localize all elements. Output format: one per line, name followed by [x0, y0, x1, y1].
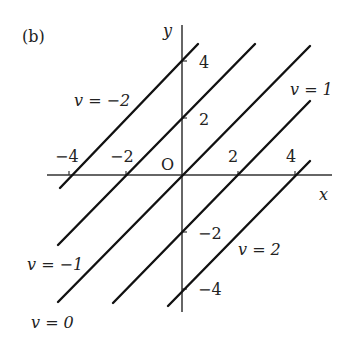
label-v-2: v = 2	[238, 240, 281, 259]
x-tick-neg2: −2	[110, 147, 134, 166]
line-v-1	[113, 101, 310, 303]
x-tick-neg4: −4	[55, 147, 79, 166]
y-tick-neg2: −2	[198, 224, 222, 243]
level-lines-diagram: (b) y x O −4 −2 2 4 4 2 −2 −4 v = −2 v =…	[0, 0, 356, 348]
y-tick-neg4: −4	[198, 280, 222, 299]
panel-label: (b)	[22, 27, 45, 46]
label-v-neg1: v = −1	[27, 255, 83, 274]
y-tick-4: 4	[199, 53, 209, 72]
line-v-neg1	[58, 44, 255, 245]
origin-label: O	[161, 155, 174, 174]
x-axis-label: x	[319, 185, 328, 204]
y-tick-2: 2	[199, 110, 209, 129]
y-axis-label: y	[162, 21, 173, 40]
label-v-0: v = 0	[31, 313, 74, 332]
x-tick-2: 2	[228, 147, 238, 166]
line-v-2	[168, 161, 310, 306]
x-tick-4: 4	[286, 147, 296, 166]
label-v-1: v = 1	[290, 80, 333, 99]
label-v-neg2: v = −2	[74, 91, 130, 110]
line-v-0	[58, 46, 310, 302]
line-v-neg2	[60, 44, 198, 188]
